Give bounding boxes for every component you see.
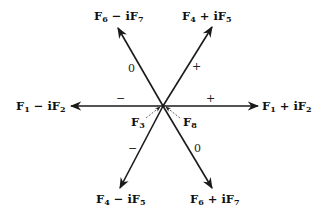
label-up-right: F4 + iF5 (182, 9, 232, 24)
label-right: F1 + iF2 (262, 99, 312, 114)
sign-up-left: 0 (128, 62, 135, 75)
arrow-up-right (163, 27, 212, 106)
label-f8: F8 (183, 115, 197, 130)
label-up-left: F6 − iF7 (94, 9, 144, 24)
sign-down-right: 0 (194, 142, 201, 155)
sign-up-right: + (192, 60, 201, 73)
arrow-down-left (120, 106, 163, 188)
label-f3: F3 (131, 115, 145, 130)
hexagonal-diagram: F1 + iF2 F1 − iF2 F4 + iF5 F4 − iF5 F6 −… (0, 0, 325, 213)
sign-down-left: − (128, 142, 137, 155)
sign-right: + (206, 92, 215, 105)
arrow-f8 (166, 107, 180, 118)
label-down-left: F4 − iF5 (96, 192, 146, 207)
label-down-right: F6 + iF7 (190, 192, 240, 207)
label-left: F1 − iF2 (16, 99, 66, 114)
sign-left: − (116, 92, 125, 105)
